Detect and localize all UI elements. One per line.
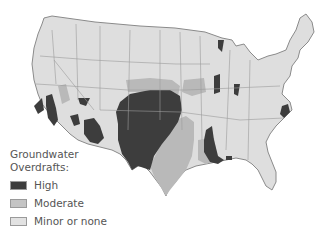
swatch-high bbox=[10, 181, 27, 190]
legend-item-moderate: Moderate bbox=[10, 194, 107, 212]
legend-label-minor: Minor or none bbox=[34, 215, 107, 228]
legend: Groundwater Overdrafts: High Moderate Mi… bbox=[10, 148, 107, 230]
legend-item-high: High bbox=[10, 176, 107, 194]
legend-label-moderate: Moderate bbox=[34, 197, 84, 210]
swatch-moderate bbox=[10, 199, 27, 208]
legend-item-minor: Minor or none bbox=[10, 212, 107, 230]
legend-label-high: High bbox=[34, 179, 58, 192]
legend-title-line2: Overdrafts: bbox=[10, 161, 107, 174]
legend-title: Groundwater Overdrafts: bbox=[10, 148, 107, 174]
swatch-minor bbox=[10, 217, 27, 226]
legend-title-line1: Groundwater bbox=[10, 148, 107, 161]
